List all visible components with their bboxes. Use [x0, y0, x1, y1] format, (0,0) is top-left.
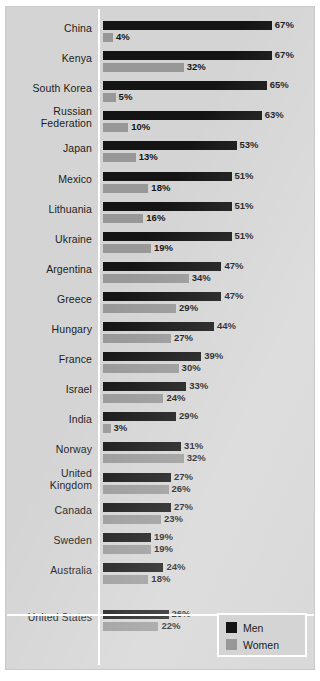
bar-track-men: 67% — [103, 51, 311, 60]
bar-track-men: 31% — [103, 442, 311, 451]
row-label-japan: Japan — [6, 142, 92, 154]
chart-row: Israel33%24% — [6, 379, 314, 413]
bar-track-men: 29% — [103, 412, 311, 421]
bar-women — [103, 274, 189, 283]
chart-row: Canada27%23% — [6, 500, 314, 534]
row-label-india: India — [6, 413, 92, 425]
bar-value-women: 30% — [182, 362, 201, 374]
row-label-united-states: United States — [6, 611, 92, 623]
bar-men — [103, 322, 214, 331]
bar-value-men: 65% — [270, 79, 289, 91]
bar-value-men: 19% — [154, 531, 173, 543]
chart-row: Kenya67%32% — [6, 48, 314, 82]
bar-track-men: 51% — [103, 202, 311, 211]
bar-women — [103, 622, 158, 631]
bar-men — [103, 412, 176, 421]
bar-track-men: 65% — [103, 81, 311, 90]
bar-women — [103, 334, 171, 343]
chart-row: RussianFederation63%10% — [6, 108, 314, 142]
bar-value-men: 27% — [174, 501, 193, 513]
bar-value-men: 51% — [235, 170, 254, 182]
row-label-united-kingdom: UnitedKingdom — [6, 467, 92, 491]
chart-row: China67%4% — [6, 18, 314, 52]
bar-men — [103, 473, 171, 482]
bar-value-women: 16% — [146, 212, 165, 224]
row-label-lithuania: Lithuania — [6, 203, 92, 215]
bar-value-women: 23% — [164, 513, 183, 525]
row-label-australia: Australia — [6, 564, 92, 576]
chart-row: Mexico51%18% — [6, 169, 314, 203]
bar-women — [103, 63, 184, 72]
bar-track-women: 3% — [103, 424, 311, 433]
bar-value-men: 31% — [184, 440, 203, 452]
bar-women — [103, 515, 161, 524]
bar-value-women: 32% — [187, 452, 206, 464]
bar-women — [103, 244, 151, 253]
bar-women — [103, 304, 176, 313]
bar-value-men: 51% — [235, 200, 254, 212]
bar-men — [103, 111, 262, 120]
row-label-norway: Norway — [6, 443, 92, 455]
row-label-ukraine: Ukraine — [6, 233, 92, 245]
chart-row: Ukraine51%19% — [6, 229, 314, 263]
bar-women — [103, 184, 148, 193]
bar-track-men: 47% — [103, 292, 311, 301]
row-label-france: France — [6, 353, 92, 365]
chart-row: Lithuania51%16% — [6, 199, 314, 233]
row-label-sweden: Sweden — [6, 534, 92, 546]
bar-track-women: 24% — [103, 394, 311, 403]
bar-men — [103, 21, 272, 30]
bar-track-men: 51% — [103, 172, 311, 181]
bar-value-women: 19% — [154, 242, 173, 254]
chart-row: Japan53%13% — [6, 138, 314, 172]
bar-value-men: 29% — [179, 410, 198, 422]
bar-track-women: 4% — [103, 33, 311, 42]
bar-value-women: 22% — [161, 620, 180, 632]
chart-row: Sweden19%19% — [6, 530, 314, 564]
bar-track-women: 32% — [103, 454, 311, 463]
bar-track-men: 67% — [103, 21, 311, 30]
bar-value-men: 63% — [265, 109, 284, 121]
bar-track-women: 23% — [103, 515, 311, 524]
bar-value-women: 29% — [179, 302, 198, 314]
bar-men — [103, 352, 201, 361]
bar-men — [103, 232, 232, 241]
bar-men — [103, 202, 232, 211]
bar-value-women: 13% — [139, 151, 158, 163]
value-axis-line — [98, 9, 100, 665]
bar-value-women: 26% — [172, 483, 191, 495]
bar-track-women: 19% — [103, 545, 311, 554]
legend-label-men: Men — [243, 622, 263, 634]
bar-track-women: 18% — [103, 575, 311, 584]
bar-men — [103, 533, 151, 542]
chart-row: Australia24%18% — [6, 560, 314, 594]
bar-track-men: 44% — [103, 322, 311, 331]
bar-value-men: 24% — [166, 561, 185, 573]
bar-men — [103, 382, 186, 391]
row-label-russian-federation: RussianFederation — [6, 105, 92, 129]
bar-men — [103, 503, 171, 512]
bar-men — [103, 563, 163, 572]
bar-men — [103, 141, 237, 150]
bar-track-women: 16% — [103, 214, 311, 223]
legend-swatch-men-icon — [226, 622, 237, 633]
bar-value-men: 47% — [224, 260, 243, 272]
bar-track-men: 27% — [103, 473, 311, 482]
bar-track-men: 39% — [103, 352, 311, 361]
bar-value-women: 18% — [151, 182, 170, 194]
bar-value-men: 44% — [217, 320, 236, 332]
bar-men — [103, 262, 221, 271]
bar-value-women: 4% — [116, 31, 130, 43]
bar-value-women: 19% — [154, 543, 173, 555]
bar-women — [103, 485, 169, 494]
legend-item-men: Men — [226, 619, 305, 636]
bar-women — [103, 394, 163, 403]
row-label-canada: Canada — [6, 504, 92, 516]
bar-men — [103, 81, 267, 90]
bar-track-women: 32% — [103, 63, 311, 72]
bar-value-men: 39% — [204, 350, 223, 362]
chart-row: France39%30% — [6, 349, 314, 383]
bar-track-men: 47% — [103, 262, 311, 271]
row-label-china: China — [6, 22, 92, 34]
bar-women — [103, 33, 113, 42]
